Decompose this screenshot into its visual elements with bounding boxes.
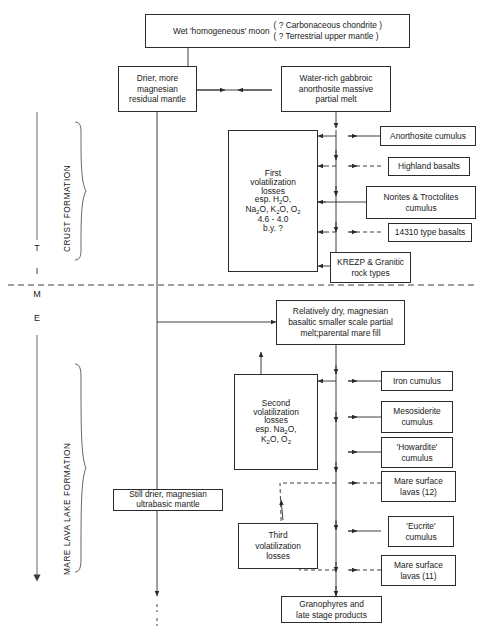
- box-mesosiderite-cumulus[interactable]: Mesosiderite cumulus: [381, 401, 453, 433]
- box-eucrite-cumulus[interactable]: 'Eucrite' cumulus: [388, 516, 454, 547]
- box-drier-residual-mantle-line-1: Drier, more: [122, 73, 193, 84]
- box-water-rich-partial-melt-line-2: anorthosite massive: [285, 84, 387, 95]
- flowchart-diagram: T I M E CRUST FORMATION MARE LAVA LAKE F…: [0, 0, 483, 636]
- box-iron-cumulus-label: Iron cumulus: [385, 376, 449, 387]
- box-eucrite-cumulus-line-1: 'Eucrite': [392, 521, 450, 532]
- box-third-volatilization-line-2: volatilization: [242, 541, 314, 552]
- box-14310-type-basalts-label: 14310 type basalts: [392, 227, 468, 238]
- box-krezp-granitic-line-2: rock types: [334, 268, 407, 279]
- box-howardite-cumulus[interactable]: 'Howardite' cumulus: [381, 437, 453, 468]
- box-water-rich-partial-melt-line-3: partial melt: [285, 94, 387, 105]
- section-label-crust-formation: CRUST FORMATION: [63, 165, 72, 252]
- box-granophyres-line-2: late stage products: [285, 610, 378, 621]
- box-eucrite-cumulus-line-2: cumulus: [392, 532, 450, 543]
- box-drier-residual-mantle-line-2: magnesian: [122, 84, 193, 95]
- box-relatively-dry-basaltic-melt[interactable]: Relatively dry, magnesian basaltic small…: [276, 300, 405, 345]
- box-drier-residual-mantle-line-3: residual mantle: [122, 94, 193, 105]
- box-source-moon[interactable]: Wet 'homogeneous' moon ( ? Carbonaceous …: [145, 14, 410, 48]
- box-mesosiderite-cumulus-line-2: cumulus: [385, 417, 449, 428]
- box-iron-cumulus[interactable]: Iron cumulus: [381, 371, 453, 391]
- box-source-moon-option-2: ( ? Terrestrial upper mantle ): [274, 31, 382, 42]
- box-relatively-dry-melt-line-1: Relatively dry, magnesian: [280, 306, 401, 317]
- box-howardite-cumulus-line-2: cumulus: [385, 453, 449, 464]
- box-krezp-granitic-line-1: KREZP & Granitic: [334, 257, 407, 268]
- box-anorthosite-cumulus[interactable]: Anorthosite cumulus: [380, 126, 476, 146]
- box-granophyres-late-stage-products[interactable]: Granophyres and late stage products: [281, 596, 382, 623]
- box-first-volatilization-line-7: b.y. ?: [232, 224, 314, 233]
- box-source-moon-left: Wet 'homogeneous' moon: [173, 26, 270, 37]
- box-anorthosite-cumulus-label: Anorthosite cumulus: [384, 131, 472, 142]
- box-mare-lavas-12-line-2: lavas (12): [385, 487, 452, 498]
- box-third-volatilization-losses[interactable]: Third volatilization losses: [238, 523, 318, 569]
- box-still-drier-ultrabasic-mantle[interactable]: Still drier, magnesian ultrabasic mantle: [113, 489, 223, 511]
- box-norites-troctolites-line-2: cumulus: [370, 203, 472, 214]
- box-mare-lavas-12-line-1: Mare surface: [385, 476, 452, 487]
- box-relatively-dry-melt-line-2: basaltic smaller scale partial: [280, 317, 401, 328]
- box-14310-type-basalts[interactable]: 14310 type basalts: [388, 223, 472, 242]
- box-mare-lavas-11-line-2: lavas (11): [385, 571, 452, 582]
- box-relatively-dry-melt-line-3: melt;parental mare fill: [280, 328, 401, 339]
- box-mare-surface-lavas-12[interactable]: Mare surface lavas (12): [381, 471, 456, 502]
- section-label-mare-lava-lake-formation: MARE LAVA LAKE FORMATION: [63, 443, 72, 575]
- box-second-volatilization-line-5: K2O, O2: [238, 435, 314, 445]
- box-water-rich-partial-melt[interactable]: Water-rich gabbroic anorthosite massive …: [281, 66, 391, 112]
- box-highland-basalts-label: Highland basalts: [392, 161, 466, 172]
- box-drier-residual-mantle[interactable]: Drier, more magnesian residual mantle: [118, 66, 197, 112]
- box-mare-surface-lavas-11[interactable]: Mare surface lavas (11): [381, 555, 456, 586]
- box-first-volatilization-losses[interactable]: First volatilization losses esp. H2O, Na…: [228, 130, 318, 272]
- box-still-drier-mantle-line-2: ultrabasic mantle: [117, 500, 219, 510]
- box-second-volatilization-losses[interactable]: Second volatilization losses esp. Na2O, …: [234, 374, 318, 470]
- box-water-rich-partial-melt-line-1: Water-rich gabbroic: [285, 73, 387, 84]
- box-mare-lavas-11-line-1: Mare surface: [385, 560, 452, 571]
- box-source-moon-option-1: ( ? Carbonaceous chondrite ): [274, 20, 382, 31]
- box-highland-basalts[interactable]: Highland basalts: [388, 157, 470, 176]
- box-norites-troctolites-cumulus[interactable]: Norites & Troctolites cumulus: [366, 186, 476, 219]
- time-axis-letter-e: E: [30, 313, 44, 323]
- time-axis-letter-m: M: [30, 289, 44, 299]
- box-norites-troctolites-line-1: Norites & Troctolites: [370, 192, 472, 203]
- box-third-volatilization-line-1: Third: [242, 530, 314, 541]
- box-howardite-cumulus-line-1: 'Howardite': [385, 442, 449, 453]
- box-granophyres-line-1: Granophyres and: [285, 599, 378, 610]
- time-axis-letter-t: T: [30, 243, 44, 253]
- time-axis-letter-i: I: [30, 266, 44, 276]
- box-krezp-granitic-rock-types[interactable]: KREZP & Granitic rock types: [330, 252, 411, 283]
- box-mesosiderite-cumulus-line-1: Mesosiderite: [385, 406, 449, 417]
- box-third-volatilization-line-3: losses: [242, 551, 314, 562]
